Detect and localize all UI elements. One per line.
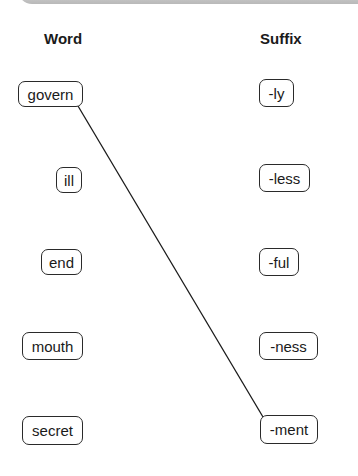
word-box[interactable]: govern (18, 81, 83, 107)
word-box[interactable]: ill (56, 167, 82, 193)
suffix-box[interactable]: -ful (259, 248, 299, 276)
suffix-box[interactable]: -less (259, 164, 310, 192)
connection-line (78, 106, 263, 417)
word-box[interactable]: end (41, 249, 82, 275)
suffix-box[interactable]: -ly (259, 79, 294, 107)
suffix-box[interactable]: -ness (259, 332, 318, 360)
word-box[interactable]: secret (22, 416, 83, 445)
suffix-box[interactable]: -ment (260, 415, 318, 444)
word-box[interactable]: mouth (22, 332, 83, 360)
